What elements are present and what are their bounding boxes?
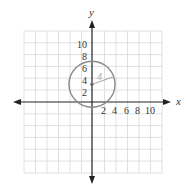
y-tick-label: 8: [82, 51, 87, 62]
coordinate-plane: y x 2 4 6 8 10 2 4 6 8 10 4: [0, 0, 188, 192]
radius-label: 4: [97, 71, 102, 82]
x-tick-label: 8: [135, 105, 140, 116]
y-axis-down-arrow-icon: [89, 176, 95, 184]
y-tick-label: 2: [82, 87, 87, 98]
x-tick-label: 6: [124, 105, 129, 116]
y-tick-label: 10: [77, 39, 87, 50]
x-axis-right-arrow-icon: [163, 99, 171, 105]
y-axis-label: y: [88, 6, 94, 18]
x-tick-label: 4: [112, 105, 117, 116]
x-tick-label: 2: [101, 105, 106, 116]
y-tick-label: 4: [82, 75, 87, 86]
x-tick-label: 10: [145, 105, 155, 116]
y-axis-up-arrow-icon: [89, 20, 95, 28]
x-axis-left-arrow-icon: [13, 99, 21, 105]
y-tick-label: 6: [82, 63, 87, 74]
x-tick-labels: 2 4 6 8 10: [101, 105, 155, 116]
y-tick-labels: 2 4 6 8 10: [77, 39, 87, 98]
x-axis-label: x: [175, 95, 181, 107]
